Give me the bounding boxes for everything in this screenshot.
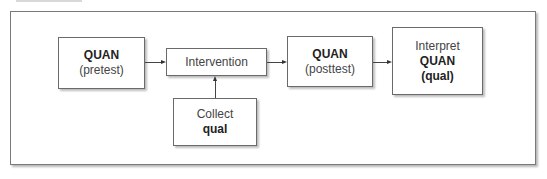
- node-label-bold: (qual): [421, 69, 454, 84]
- arrowhead-icon: [161, 60, 166, 64]
- arrow-line: [267, 62, 282, 63]
- node-label-bold: QUAN: [420, 54, 455, 69]
- node-label: Collect: [197, 107, 234, 122]
- node-label: (posttest): [305, 62, 355, 77]
- node-label: (pretest): [79, 63, 124, 78]
- header-tab: [16, 0, 82, 2]
- node-label-bold: qual: [203, 122, 228, 137]
- arrowhead-icon: [387, 60, 392, 64]
- node-label-bold: QUAN: [312, 47, 347, 62]
- node-interpret: Interpret QUAN (qual): [392, 27, 483, 95]
- arrow-line: [145, 62, 161, 63]
- arrowhead-icon: [213, 76, 217, 81]
- node-collect-qual: Collect qual: [173, 98, 257, 146]
- node-intervention: Intervention: [166, 48, 267, 76]
- node-label: Intervention: [185, 55, 248, 70]
- arrowhead-icon: [282, 60, 287, 64]
- node-label-bold: QUAN: [84, 48, 119, 63]
- arrow-line: [215, 81, 216, 98]
- node-label: Interpret: [415, 39, 460, 54]
- node-quan-pretest: QUAN (pretest): [58, 37, 145, 89]
- arrow-line: [373, 62, 387, 63]
- node-quan-posttest: QUAN (posttest): [287, 36, 373, 87]
